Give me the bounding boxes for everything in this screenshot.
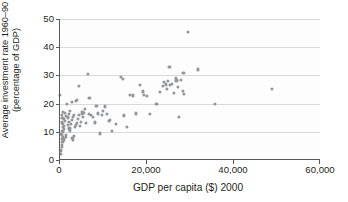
y-tick-label-0: 0 [49, 155, 54, 165]
gridline-y-40 [59, 47, 320, 48]
gridline-y-50 [59, 19, 320, 20]
x-tick-label-40000: 40,000 [218, 165, 247, 175]
y-tick-label-50: 50 [43, 14, 54, 24]
x-tick-label-60000: 60,000 [305, 165, 334, 175]
plot-area: 01020304050 020,00040,00060,000 [59, 19, 320, 160]
gridline-y-20 [59, 104, 320, 105]
y-axis-title: Average investment rate 1960–90 (percent… [0, 0, 36, 150]
y-tick-label-30: 30 [43, 70, 54, 80]
y-axis-title-line1: Average investment rate 1960–90 [0, 0, 11, 150]
x-axis-line [59, 159, 320, 160]
y-tick-label-40: 40 [43, 42, 54, 52]
gridline-y-30 [59, 75, 320, 76]
y-tick-label-10: 10 [43, 127, 54, 137]
y-axis-line [59, 19, 60, 160]
x-tick-label-0: 0 [56, 165, 61, 175]
y-axis-title-line2: (percentage of GDP) [11, 0, 22, 150]
scatter-chart-figure: Average investment rate 1960–90 (percent… [0, 0, 348, 202]
x-tick-label-20000: 20,000 [131, 165, 160, 175]
y-tick-label-20: 20 [43, 99, 54, 109]
plot-background [59, 19, 320, 160]
x-axis-title: GDP per capita ($) 2000 [0, 182, 348, 194]
